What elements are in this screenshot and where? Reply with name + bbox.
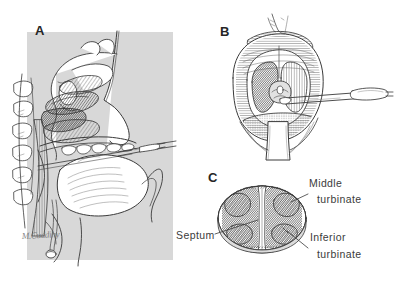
label-middle-turbinate-line1: Middle — [309, 177, 342, 191]
panel-letter-c: C — [208, 171, 218, 184]
panel-letter-b: B — [220, 25, 230, 38]
panel-c-cross-section-drawing — [215, 185, 308, 253]
panel-b-oral-view-drawing — [233, 14, 393, 160]
anatomical-figure: A B C Middle turbinate Inferior turbinat… — [0, 0, 395, 281]
panel-letter-a: A — [35, 24, 45, 37]
label-inferior-turbinate-line2: turbinate — [317, 248, 361, 262]
label-septum: Septum — [176, 229, 215, 243]
label-inferior-turbinate-line1: Inferior — [310, 231, 346, 245]
label-middle-turbinate-line2: turbinate — [317, 193, 361, 207]
